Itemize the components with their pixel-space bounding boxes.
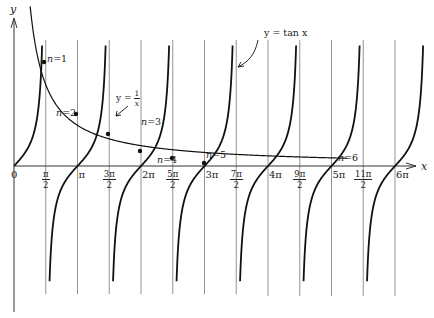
reciprocal-label-fraction: 1 x xyxy=(134,90,141,107)
y-axis-label: y xyxy=(10,4,16,15)
tick-num: 11π xyxy=(354,170,372,180)
tick-num: 7π xyxy=(230,170,243,180)
tick-den: 2 xyxy=(361,180,366,190)
intersection-dot xyxy=(42,60,46,64)
reciprocal-label-leader xyxy=(116,106,128,116)
x-tick-label: 5π2 xyxy=(165,170,181,189)
intersection-dot xyxy=(138,149,142,153)
reciprocal-label-num: 1 xyxy=(134,90,141,99)
tick-num: 3π xyxy=(103,170,116,180)
x-tick-label: 11π2 xyxy=(355,170,371,189)
tick-den: 2 xyxy=(297,180,302,190)
tick-den: 2 xyxy=(234,180,239,190)
tick-num: 5π xyxy=(166,170,179,180)
tick-num: 9π xyxy=(293,170,306,180)
reciprocal-curve-label: y = 1 x xyxy=(116,90,140,107)
reciprocal-label-den: x xyxy=(135,99,139,108)
x-tick-label: 3π2 xyxy=(101,170,117,189)
tick-den: 2 xyxy=(107,180,112,190)
tick-den: 2 xyxy=(43,180,48,190)
tan-branch xyxy=(14,46,42,166)
intersection-label: n=5 xyxy=(206,150,226,160)
x-tick-label: 9π2 xyxy=(292,170,308,189)
x-tick-label: 5π xyxy=(333,170,346,180)
x-tick-label: 7π2 xyxy=(228,170,244,189)
intersection-dot xyxy=(106,132,110,136)
intersection-label: n=3 xyxy=(141,117,161,127)
x-axis-label: x xyxy=(421,161,427,172)
x-tick-label: 2π xyxy=(142,170,155,180)
intersection-label: n=1 xyxy=(47,54,67,64)
x-tick-label: π xyxy=(79,170,86,180)
tan-label-leader xyxy=(238,40,258,67)
reciprocal-label-prefix: y = xyxy=(116,94,132,103)
intersection-label: n=4 xyxy=(157,155,177,165)
intersection-label: n=6 xyxy=(338,153,358,163)
tick-num: π xyxy=(42,170,50,180)
x-tick-label: 4π xyxy=(269,170,282,180)
tan-curve-label: y = tan x xyxy=(264,28,307,38)
intersection-label: n=2 xyxy=(56,108,76,118)
x-tick-label: π2 xyxy=(38,170,54,189)
intersection-dot xyxy=(202,161,206,165)
origin-label: 0 xyxy=(11,170,17,180)
x-tick-label: 6π xyxy=(396,170,409,180)
x-tick-label: 3π xyxy=(206,170,219,180)
tick-den: 2 xyxy=(170,180,175,190)
